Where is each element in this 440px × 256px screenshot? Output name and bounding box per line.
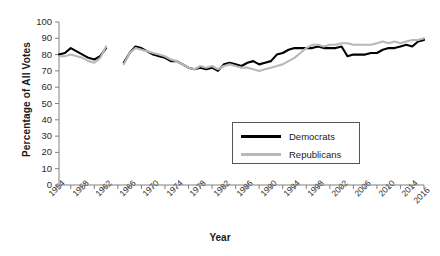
legend-label-democrats: Democrats xyxy=(289,131,335,142)
legend-swatch-republicans xyxy=(241,153,281,156)
legend-label-republicans: Republicans xyxy=(289,149,341,160)
legend-swatch-democrats xyxy=(241,135,281,138)
chart-legend: Democrats Republicans xyxy=(232,122,360,164)
legend-item-democrats: Democrats xyxy=(241,129,335,143)
plot-area xyxy=(0,0,440,256)
x-axis-title: Year xyxy=(0,232,440,243)
chart-root: Percentage of All Votes 0102030405060708… xyxy=(0,0,440,256)
legend-item-republicans: Republicans xyxy=(241,147,341,161)
